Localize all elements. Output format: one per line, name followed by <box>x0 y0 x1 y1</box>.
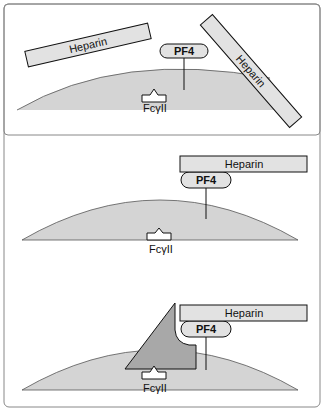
panel-1: FcγII PF4 Heparin Heparin <box>17 14 302 127</box>
pf4-label: PF4 <box>174 45 195 57</box>
pf4-label: PF4 <box>196 323 217 335</box>
receptor-label: FcγII <box>143 382 167 394</box>
heparin-bar: Heparin <box>180 305 307 321</box>
svg-text:Heparin: Heparin <box>225 158 264 170</box>
heparin-left: Heparin <box>25 23 151 67</box>
receptor-label: FcγII <box>143 102 167 114</box>
panel-3: FcγII PF4 Heparin <box>22 303 307 394</box>
receptor-label: FcγII <box>149 243 173 255</box>
pf4-label: PF4 <box>196 174 217 186</box>
hit-mechanism-diagram: FcγII PF4 Heparin Heparin FcγII PF4 <box>0 0 324 411</box>
heparin-bar: Heparin <box>180 156 307 172</box>
panel-2: FcγII PF4 Heparin <box>22 156 307 255</box>
svg-text:Heparin: Heparin <box>225 307 264 319</box>
